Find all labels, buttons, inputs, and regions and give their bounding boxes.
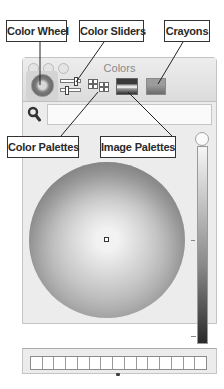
- callout-color-wheel: Color Wheel: [6, 20, 67, 42]
- callout-crayons: Crayons: [164, 20, 210, 42]
- callout-color-sliders: Color Sliders: [79, 20, 144, 42]
- callout-color-palettes: Color Palettes: [7, 136, 79, 158]
- callout-leader-lines: [0, 0, 224, 389]
- callout-image-palettes: Image Palettes: [100, 136, 176, 158]
